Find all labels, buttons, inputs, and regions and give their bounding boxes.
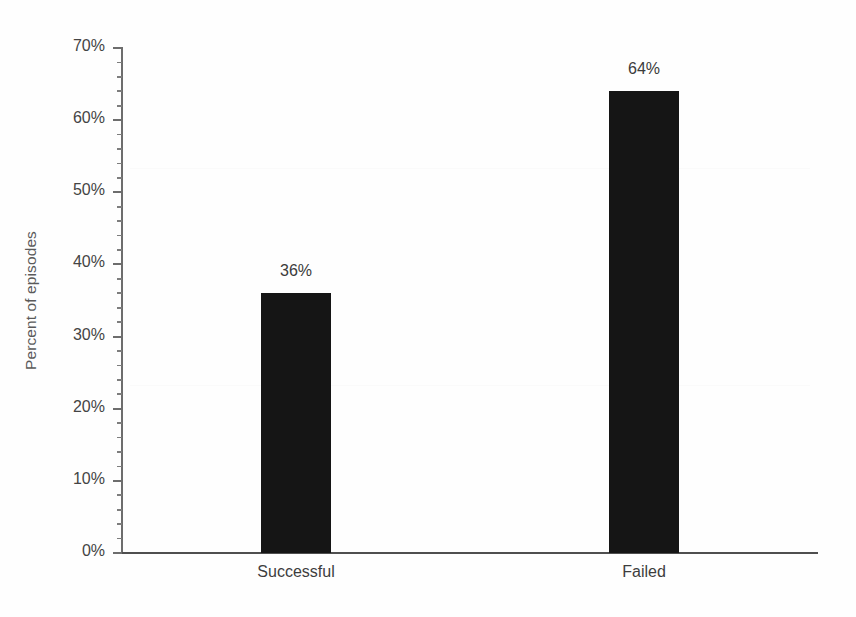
y-axis-tick-label: 40% xyxy=(15,253,105,271)
bar-chart-figure: Percent of episodes 0%10%20%30%40%50%60%… xyxy=(0,0,856,617)
y-axis-tick-label-layer: 0%10%20%30%40%50%60%70% xyxy=(0,0,856,617)
x-axis-category-label: Failed xyxy=(554,563,734,581)
bar-failed[interactable] xyxy=(609,91,679,553)
y-axis-tick-label: 0% xyxy=(15,542,105,560)
y-axis-tick-label: 60% xyxy=(15,109,105,127)
y-axis-tick-label: 10% xyxy=(15,470,105,488)
y-axis-tick-label: 30% xyxy=(15,326,105,344)
bar-data-label: 64% xyxy=(584,60,704,78)
x-axis-category-label: Successful xyxy=(206,563,386,581)
y-axis-tick-label: 50% xyxy=(15,181,105,199)
bar-successful[interactable] xyxy=(261,293,331,553)
y-axis-tick-label: 20% xyxy=(15,398,105,416)
bar-data-label: 36% xyxy=(236,262,356,280)
y-axis-tick-label: 70% xyxy=(15,37,105,55)
